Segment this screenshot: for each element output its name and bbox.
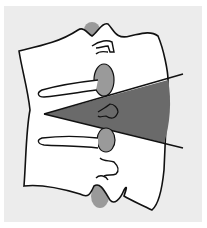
vertebra-illustration	[0, 0, 207, 228]
disc-lower-middle	[97, 128, 115, 152]
diagram-canvas	[0, 0, 207, 228]
